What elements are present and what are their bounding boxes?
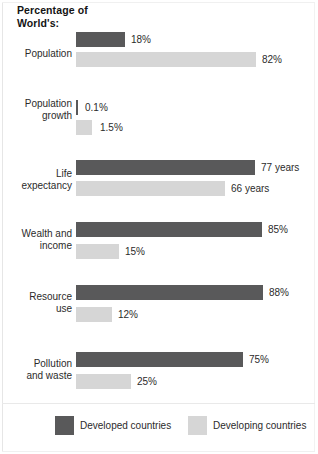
bar-value-label: 1.5% — [100, 121, 123, 134]
bar-value-label: 75% — [249, 353, 269, 366]
bar-value-label: 66 years — [231, 182, 269, 195]
legend-divider — [2, 403, 315, 404]
legend-label-developed: Developed countries — [80, 419, 171, 432]
bar-value-label: 18% — [131, 33, 151, 46]
bar-value-label: 85% — [268, 223, 288, 236]
category-label: Resource use — [0, 291, 72, 314]
bar-developed — [76, 100, 78, 115]
bar-developing — [76, 181, 225, 196]
category-label: Population — [0, 48, 72, 60]
bar-value-label: 88% — [269, 286, 289, 299]
legend-swatch-developed-icon — [55, 416, 74, 435]
legend-swatch-developing-icon — [188, 416, 207, 435]
bar-developed — [76, 160, 255, 175]
bar-value-label: 12% — [118, 308, 138, 321]
bar-developing — [76, 374, 131, 389]
category-label: Wealth and income — [0, 228, 72, 251]
bar-developing — [76, 52, 256, 67]
bar-developed — [76, 222, 262, 237]
bar-value-label: 77 years — [261, 161, 299, 174]
category-label: Pollution and waste — [0, 358, 72, 381]
bar-developed — [76, 32, 125, 47]
category-label: Life expectancy — [0, 168, 72, 191]
bar-groups: Population18%82%Population growth0.1%1.5… — [0, 0, 318, 400]
chart-legend: Developed countries Developing countries — [0, 416, 318, 438]
frame-border-bottom — [2, 451, 315, 452]
bar-developed — [76, 285, 263, 300]
chart-frame: Percentage of World's: Population18%82%P… — [0, 0, 318, 454]
bar-value-label: 0.1% — [85, 101, 108, 114]
legend-label-developing: Developing countries — [213, 419, 306, 432]
category-label: Population growth — [0, 98, 72, 121]
bar-value-label: 15% — [125, 245, 145, 258]
bar-value-label: 82% — [262, 53, 282, 66]
bar-developing — [76, 244, 119, 259]
bar-developing — [76, 307, 112, 322]
bar-developed — [76, 352, 243, 367]
bar-developing — [76, 120, 92, 135]
bar-value-label: 25% — [137, 375, 157, 388]
